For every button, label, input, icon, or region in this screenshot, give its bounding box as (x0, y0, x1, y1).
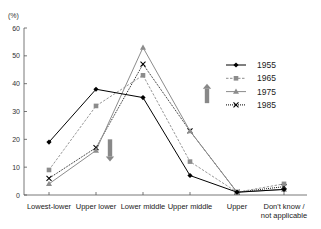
x-tick-label-line: Upper lower (76, 202, 117, 211)
x-tick-label-line: Lower middle (121, 202, 166, 211)
legend-item-1985: 1985 (226, 100, 276, 110)
y-tick-label: 50 (12, 52, 20, 59)
data-point-1975 (46, 181, 52, 186)
x-tick-label-line: Upper middle (168, 202, 213, 211)
data-point-1965 (282, 182, 287, 187)
legend-label: 1965 (257, 73, 276, 83)
x-tick-label: Upper lower (76, 202, 117, 211)
legend-marker (234, 76, 239, 81)
arrow-down-icon (106, 139, 114, 161)
y-tick-label: 10 (12, 164, 20, 171)
x-tick-label-line: Upper (227, 202, 248, 211)
legend-item-1975: 1975 (226, 87, 276, 97)
legend-label: 1975 (257, 87, 276, 97)
y-tick-label: 40 (12, 80, 20, 87)
legend-item-1955: 1955 (226, 60, 276, 70)
legend-label: 1985 (257, 100, 276, 110)
series-line-1955 (49, 89, 284, 192)
y-tick-label: 20 (12, 136, 20, 143)
series-1955 (46, 87, 286, 195)
x-tick-label: Upper (227, 202, 248, 211)
arrow-shaft (205, 89, 209, 103)
data-point-1955 (140, 95, 145, 100)
data-point-1965 (141, 73, 146, 78)
arrow-head (203, 84, 211, 89)
series-line-1985 (49, 64, 284, 192)
data-point-1985 (141, 62, 146, 67)
x-tick-label: Lower middle (121, 202, 166, 211)
y-axis-unit-label: (%) (8, 12, 19, 20)
arrow-head (106, 157, 114, 162)
data-point-1975 (140, 44, 146, 49)
data-point-1965 (188, 159, 193, 164)
y-axis-ticks: 0102030405060 (12, 25, 27, 199)
legend-item-1965: 1965 (226, 73, 276, 83)
series-1975 (46, 44, 287, 194)
line-chart: (%) 0102030405060 Lowest-lowerUpper lowe… (0, 0, 321, 229)
legend-label: 1955 (257, 60, 276, 70)
legend-marker (233, 62, 238, 67)
data-point-1965 (94, 104, 99, 109)
data-point-1965 (47, 168, 52, 173)
y-tick-label: 0 (16, 192, 20, 199)
y-tick-label: 30 (12, 108, 20, 115)
x-tick-label: Don't know /not applicable (261, 202, 307, 220)
x-axis-ticks: Lowest-lowerUpper lowerLower middleUpper… (27, 192, 307, 220)
data-point-1985 (47, 176, 52, 181)
axes (24, 28, 307, 195)
x-tick-label-line: not applicable (261, 211, 307, 220)
series-1985 (47, 62, 287, 195)
series-1965 (47, 73, 287, 195)
x-tick-label-line: Don't know / (263, 202, 305, 211)
series-line-1965 (49, 75, 284, 192)
x-tick-label-line: Lowest-lower (27, 202, 72, 211)
x-tick-label: Lowest-lower (27, 202, 72, 211)
series-line-1975 (49, 47, 284, 192)
arrow-up-icon (203, 84, 211, 103)
legend: 1955196519751985 (226, 60, 276, 110)
x-tick-label: Upper middle (168, 202, 213, 211)
data-point-1955 (187, 173, 192, 178)
series-group (46, 44, 287, 194)
arrow-shaft (108, 139, 112, 156)
y-tick-label: 60 (12, 25, 20, 32)
